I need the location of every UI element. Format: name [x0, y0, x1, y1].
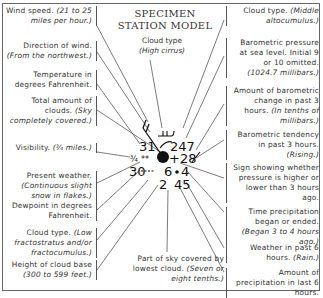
past-weather-rain-icon	[175, 170, 179, 174]
station-circle-icon	[157, 151, 169, 163]
temperature-value: 31	[139, 140, 156, 153]
low-cloud-cover-value: 2	[159, 178, 167, 191]
high-cirrus-symbol	[158, 131, 174, 136]
precip-amount-value: 45	[174, 178, 191, 191]
dewpoint-value: 30	[129, 165, 146, 178]
